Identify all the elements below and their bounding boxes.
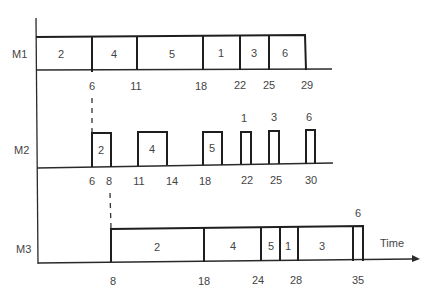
m2-tick: 18 [199, 175, 211, 187]
m3-job: 1 [285, 240, 291, 252]
m3-tick: 8 [110, 275, 116, 287]
vertical-axis [36, 18, 38, 264]
m2-tick: 11 [133, 175, 144, 187]
m1-job: 2 [58, 48, 64, 60]
m3-job: 3 [319, 240, 325, 252]
machine-label-m1: M1 [12, 48, 27, 60]
m2-job-box [306, 130, 315, 164]
m1-tick: 29 [301, 79, 313, 91]
m2-tick: 8 [106, 175, 112, 187]
m1-tick: 25 [263, 79, 275, 91]
m2-tick: 25 [270, 174, 282, 186]
m1-job: 3 [251, 47, 257, 59]
m1-job: 5 [169, 48, 175, 60]
time-axis-label: Time [380, 237, 404, 249]
machine-label-m2: M2 [14, 144, 29, 156]
m2-job-box [241, 132, 251, 164]
m2-job: 3 [271, 111, 277, 123]
m1-job: 4 [111, 48, 117, 60]
m1-tick: 22 [234, 79, 246, 91]
m2-tick: 6 [89, 175, 95, 187]
dependency-dashed-line [110, 193, 111, 228]
m1-baseline [36, 69, 332, 70]
m2-job-box [269, 131, 279, 164]
m3-tick: 35 [352, 274, 364, 286]
gantt-diagram: M1 2 4 5 1 3 6 6 11 18 22 25 29 M2 2 4 5 [0, 0, 430, 295]
m1-job: 1 [218, 47, 224, 59]
m2-tick: 30 [305, 174, 317, 186]
m2-job: 4 [149, 143, 155, 155]
m3-baseline-time-axis [38, 259, 412, 263]
m2-job: 6 [306, 111, 312, 123]
machine-m1-row: M1 2 4 5 1 3 6 6 11 18 22 25 29 [12, 35, 332, 92]
m2-job: 5 [209, 142, 215, 154]
time-arrowhead-icon [412, 255, 420, 262]
m3-tick: 28 [290, 274, 302, 286]
machine-m3-row: M3 2 4 5 1 3 6 Time 8 18 24 28 35 [16, 207, 420, 287]
m3-job: 2 [154, 241, 160, 253]
m3-tick: 24 [252, 274, 264, 286]
m3-top-border [111, 226, 363, 262]
m1-tick: 11 [130, 80, 141, 92]
m1-job: 6 [282, 47, 288, 59]
m2-tick: 14 [166, 175, 178, 187]
m2-job: 2 [98, 144, 104, 156]
m3-job: 6 [355, 207, 361, 219]
machine-label-m3: M3 [16, 243, 31, 255]
m2-baseline [37, 163, 333, 168]
m3-job: 4 [230, 240, 236, 252]
m2-job: 1 [241, 112, 247, 124]
m1-tick: 18 [195, 80, 207, 92]
m3-tick: 18 [198, 275, 210, 287]
m2-tick: 22 [241, 174, 253, 186]
machine-m2-row: M2 2 4 5 1 3 6 6 8 11 14 18 22 25 30 [14, 111, 333, 187]
m1-tick: 6 [89, 80, 95, 92]
m3-job: 5 [268, 240, 274, 252]
